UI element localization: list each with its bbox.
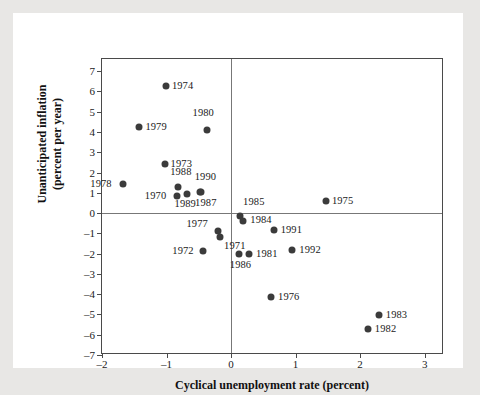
y-tick-label: –1 (84, 227, 95, 239)
y-tick-mark (97, 233, 102, 234)
x-tick-label: –1 (161, 358, 172, 370)
y-tick-mark (97, 132, 102, 133)
data-point-label-1981: 1981 (256, 248, 277, 259)
data-point-label-1980: 1980 (193, 107, 214, 118)
x-tick-label: 0 (228, 358, 234, 370)
x-tick-label: 1 (293, 358, 299, 370)
data-point-1980 (203, 127, 210, 134)
data-point-label-1992: 1992 (299, 244, 320, 255)
data-point-1979 (136, 123, 143, 130)
data-point-1986 (235, 250, 242, 257)
data-point-label-1986: 1986 (230, 259, 251, 270)
data-point-label-1984: 1984 (250, 214, 271, 225)
zero-vertical-line (231, 59, 232, 353)
y-tick-mark (97, 112, 102, 113)
data-point-1989 (183, 191, 190, 198)
y-tick-label: 6 (90, 85, 96, 97)
data-point-label-1975: 1975 (332, 195, 353, 206)
y-axis-title-line2: (percent per year) (50, 98, 64, 190)
data-point-label-1972: 1972 (172, 245, 193, 256)
y-tick-mark (97, 254, 102, 255)
x-tick-label: –2 (97, 358, 108, 370)
data-point-1975 (322, 197, 329, 204)
data-point-label-1978: 1978 (90, 178, 111, 189)
y-tick-label: 4 (90, 126, 96, 138)
y-axis-title-line1: Unanticipated inflation (35, 85, 49, 204)
y-tick-label: 7 (90, 65, 96, 77)
y-tick-mark (97, 173, 102, 174)
data-point-1991 (270, 227, 277, 234)
data-point-1976 (268, 293, 275, 300)
y-tick-label: 0 (90, 207, 96, 219)
data-point-label-1985: 1985 (243, 196, 264, 207)
y-tick-mark (97, 335, 102, 336)
y-tick-label: –3 (84, 268, 95, 280)
data-point-label-1976: 1976 (278, 291, 299, 302)
y-tick-mark (97, 314, 102, 315)
chart-card: Unanticipated inflation (percent per yea… (13, 13, 463, 368)
data-point-label-1979: 1979 (145, 121, 166, 132)
data-point-label-1991: 1991 (281, 224, 302, 235)
data-point-label-1982: 1982 (375, 323, 396, 334)
y-tick-label: 5 (90, 106, 96, 118)
data-point-label-1990: 1990 (195, 171, 216, 182)
y-tick-mark (97, 294, 102, 295)
figure-container: Unanticipated inflation (percent per yea… (0, 0, 480, 395)
y-tick-label: –5 (84, 308, 95, 320)
x-tick-label: 2 (357, 358, 363, 370)
data-point-label-1970: 1970 (145, 190, 166, 201)
y-tick-label: –6 (84, 329, 95, 341)
y-axis-title: Unanticipated inflation (percent per yea… (35, 59, 65, 229)
data-point-1973 (161, 161, 168, 168)
data-point-1971 (217, 234, 224, 241)
data-point-label-1989: 1989 (175, 198, 196, 209)
y-tick-label: –7 (84, 349, 95, 361)
data-point-1974 (162, 83, 169, 90)
y-tick-mark (97, 91, 102, 92)
plot-area: 76543210–1–2–3–4–5–6–7 –2–10123 19741979… (101, 58, 443, 354)
data-point-1982 (364, 326, 371, 333)
data-point-1981 (246, 251, 253, 258)
x-axis-title: Cyclical unemployment rate (percent) (101, 378, 443, 393)
data-point-1972 (200, 247, 207, 254)
data-point-1992 (289, 246, 296, 253)
data-point-1987 (197, 188, 204, 195)
data-point-label-1987: 1987 (195, 197, 216, 208)
y-tick-mark (97, 213, 102, 214)
data-point-1983 (375, 312, 382, 319)
y-tick-mark (97, 274, 102, 275)
data-point-label-1974: 1974 (172, 80, 193, 91)
data-point-1978 (120, 180, 127, 187)
data-point-1988 (175, 184, 182, 191)
data-point-label-1977: 1977 (187, 218, 208, 229)
x-tick-label: 3 (422, 358, 428, 370)
data-point-label-1988: 1988 (170, 166, 191, 177)
data-point-1984 (240, 217, 247, 224)
y-tick-mark (97, 152, 102, 153)
zero-horizontal-line (102, 213, 442, 214)
data-point-label-1983: 1983 (386, 309, 407, 320)
y-tick-mark (97, 193, 102, 194)
y-tick-label: 3 (90, 146, 96, 158)
data-point-label-1971: 1971 (224, 240, 245, 251)
y-tick-label: –2 (84, 248, 95, 260)
y-tick-label: –4 (84, 288, 95, 300)
y-tick-mark (97, 71, 102, 72)
